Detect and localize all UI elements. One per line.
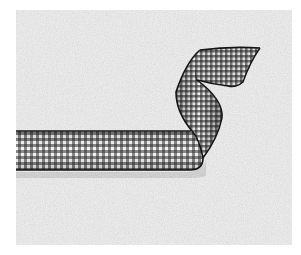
ribbon-flat-section [16, 131, 203, 170]
photo-scene: Black and white gingham ribbon curling o… [0, 0, 301, 255]
ribbon-illustration [0, 0, 301, 255]
